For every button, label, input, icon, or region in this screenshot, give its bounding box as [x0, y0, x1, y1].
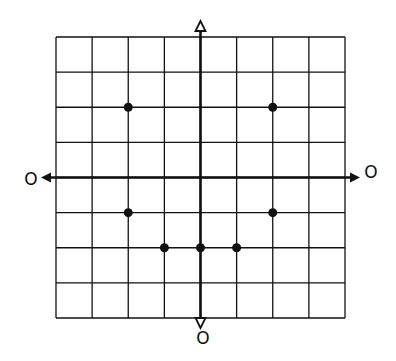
coordinate-grid: O O O — [0, 0, 396, 361]
data-point — [268, 103, 277, 112]
y-axis-bottom-label: O — [196, 328, 209, 348]
y-axis-bottom-arrow-icon — [196, 318, 206, 328]
data-point — [232, 243, 241, 252]
axes — [41, 21, 360, 328]
x-axis-left-label: O — [24, 169, 37, 189]
data-point — [196, 243, 205, 252]
data-point — [160, 243, 169, 252]
data-point — [268, 208, 277, 217]
x-axis-right-arrow-icon — [350, 173, 360, 183]
x-axis-right-label: O — [364, 162, 377, 182]
y-axis-top-arrow-icon — [196, 21, 206, 31]
data-point — [124, 103, 133, 112]
data-point — [124, 208, 133, 217]
x-axis-left-arrow-icon — [41, 173, 51, 183]
